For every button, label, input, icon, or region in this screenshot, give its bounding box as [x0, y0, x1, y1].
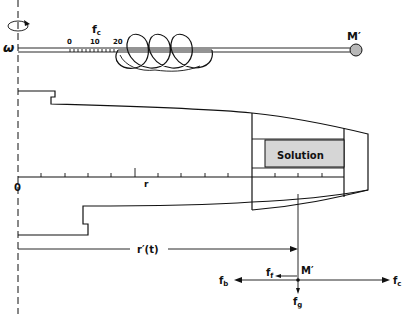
fb-arrowhead-icon	[234, 277, 242, 283]
scale-tick-10: 10	[90, 38, 100, 46]
radius-label: r′(t)	[137, 244, 159, 255]
force-fg-label: fg	[293, 296, 302, 309]
force-fb-label: fb	[219, 275, 228, 288]
force-ff-label: ff	[266, 267, 274, 280]
scale-tick-0: 0	[67, 38, 72, 46]
mass-label-bottom: M′	[301, 265, 314, 276]
rotation-arrow-icon	[8, 20, 30, 31]
scale-tick-20: 20	[113, 38, 123, 46]
origin-label: 0	[14, 182, 21, 193]
ff-arrowhead-icon	[275, 274, 281, 278]
force-diagram: fb ff fc fg M′	[219, 265, 402, 309]
solution-label: Solution	[277, 150, 324, 161]
spring-icon	[116, 34, 212, 71]
rotor-cell: Solution 0 r	[14, 91, 368, 235]
fg-arrowhead-icon	[296, 288, 300, 294]
r-axis-label: r	[144, 179, 149, 189]
mass-icon	[350, 44, 362, 56]
r-axis-ticks	[41, 168, 322, 177]
force-fc-label: fc	[92, 23, 101, 37]
force-fc-label-bottom: fc	[393, 275, 402, 288]
mass-point-icon	[296, 278, 300, 282]
radius-dimension: r′(t)	[18, 194, 298, 280]
spring-balance: 0 10 20 fc M′	[18, 23, 362, 71]
fc-arrowhead-icon	[382, 277, 390, 283]
centrifuge-diagram: ω 0 10 20 fc	[0, 0, 407, 314]
omega-label: ω	[3, 40, 14, 55]
mass-label-top: M′	[347, 30, 361, 43]
